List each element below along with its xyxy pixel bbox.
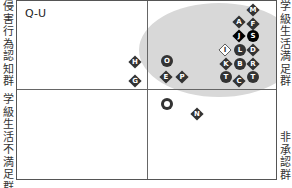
point-label: K: [220, 58, 232, 70]
data-point-t: T: [220, 71, 232, 83]
data-point-e: E: [160, 71, 172, 83]
data-point-i: I: [219, 44, 231, 56]
point-label: H: [129, 56, 141, 68]
data-point-h: H: [129, 56, 141, 68]
data-point-q: [161, 98, 173, 110]
point-label: O: [161, 55, 173, 67]
point-label: S: [247, 30, 259, 42]
data-point-o: O: [161, 55, 173, 67]
point-label: T: [220, 71, 232, 83]
data-point-p: P: [176, 71, 188, 83]
data-point-b: B: [234, 58, 246, 70]
point-label: F: [247, 18, 259, 30]
point-label: N: [191, 108, 203, 120]
point-label: T: [247, 71, 259, 83]
data-point-t: T: [247, 71, 259, 83]
label-right-top: 学級生活満足群: [278, 1, 292, 89]
point-label: P: [176, 71, 188, 83]
data-point-f: F: [247, 18, 259, 30]
point-label: L: [234, 44, 246, 56]
vertical-axis-divider: [147, 1, 148, 179]
point-label: B: [234, 58, 246, 70]
point-label: C: [233, 75, 245, 87]
ring-inner-icon: [164, 101, 170, 107]
point-label: R: [247, 58, 259, 70]
point-label: E: [160, 71, 172, 83]
data-point-c: C: [233, 75, 245, 87]
label-left-bottom: 学級生活不満足群: [1, 94, 15, 188]
qu-plot-frame: Q-U MAFJSILDKBRTCTOEPHGN: [16, 0, 277, 180]
point-label: G: [129, 75, 141, 87]
data-point-m: M: [247, 4, 259, 16]
data-point-l: L: [234, 44, 246, 56]
point-label: A: [233, 16, 245, 28]
label-right-bottom: 非承認群: [278, 132, 292, 182]
data-point-r: R: [247, 58, 259, 70]
data-point-d: D: [247, 44, 259, 56]
data-point-a: A: [233, 16, 245, 28]
data-point-j: J: [233, 30, 245, 42]
data-point-g: G: [129, 75, 141, 87]
point-label: M: [247, 4, 259, 16]
point-label: D: [247, 44, 259, 56]
point-label: J: [233, 30, 245, 42]
point-label: I: [219, 44, 231, 56]
chart-title: Q-U: [25, 7, 46, 20]
data-point-n: N: [191, 108, 203, 120]
label-left-top: 侵害行為認知群: [1, 1, 15, 89]
horizontal-axis-divider: [17, 89, 276, 90]
data-point-k: K: [220, 58, 232, 70]
data-point-s: S: [247, 30, 259, 42]
